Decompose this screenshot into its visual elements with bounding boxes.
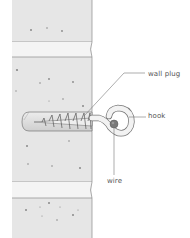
- label-wall-plug: wall plug: [148, 71, 180, 78]
- label-wire: wire: [107, 178, 122, 185]
- mortar-joint-top: [12, 42, 92, 57]
- mortar-joint-bottom: [12, 182, 92, 198]
- wire: [110, 120, 118, 128]
- wall-block-top: [12, 0, 92, 42]
- label-hook: hook: [148, 113, 165, 120]
- wall-block-bottom: [12, 198, 92, 238]
